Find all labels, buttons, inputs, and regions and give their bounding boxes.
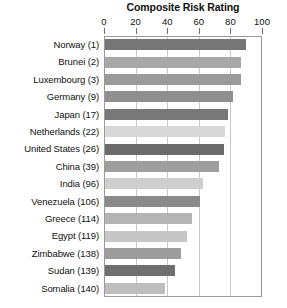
chart-row: India (96): [0, 175, 287, 192]
chart-row: United States (26): [0, 140, 287, 157]
row-label-13: Zimbabwe (138): [0, 245, 99, 262]
row-label-5: Japan (17): [0, 106, 99, 123]
row-label-14: Sudan (139): [0, 262, 99, 279]
row-label-15: Somalia (140): [0, 280, 99, 297]
bar-2: [105, 57, 241, 68]
row-label-8: China (39): [0, 158, 99, 175]
chart-rows: Norway (1)Brunei (2)Luxembourg (3)German…: [0, 36, 287, 297]
chart-title: Composite Risk Rating: [104, 1, 262, 13]
row-label-1: Norway (1): [0, 36, 99, 53]
chart-row: Greece (114): [0, 210, 287, 227]
x-axis-tick-labels: 020406080100: [0, 16, 287, 28]
x-tick-mark-60: [199, 28, 200, 34]
bar-11: [105, 213, 192, 224]
chart-row: Japan (17): [0, 106, 287, 123]
chart-row: Sudan (139): [0, 262, 287, 279]
chart-row: China (39): [0, 158, 287, 175]
x-tick-mark-40: [167, 28, 168, 34]
chart-row: Brunei (2): [0, 53, 287, 70]
row-label-11: Greece (114): [0, 210, 99, 227]
x-tick-mark-100: [262, 28, 263, 34]
bar-6: [105, 126, 225, 137]
x-tick-mark-80: [230, 28, 231, 34]
x-tick-label-20: 20: [130, 16, 141, 27]
row-label-12: Egypt (119): [0, 227, 99, 244]
bar-3: [105, 74, 241, 85]
chart-row: Egypt (119): [0, 227, 287, 244]
bar-13: [105, 248, 181, 259]
chart-row: Germany (9): [0, 88, 287, 105]
chart-row: Netherlands (22): [0, 123, 287, 140]
row-label-4: Germany (9): [0, 88, 99, 105]
bar-15: [105, 283, 165, 294]
row-label-9: India (96): [0, 175, 99, 192]
row-label-3: Luxembourg (3): [0, 71, 99, 88]
bar-1: [105, 39, 246, 50]
composite-risk-rating-chart: Composite Risk Rating 020406080100 Norwa…: [0, 0, 287, 308]
x-tick-label-40: 40: [162, 16, 173, 27]
chart-row: Luxembourg (3): [0, 71, 287, 88]
x-tick-label-80: 80: [225, 16, 236, 27]
x-tick-mark-0: [104, 28, 105, 34]
chart-row: Norway (1): [0, 36, 287, 53]
chart-row: Venezuela (106): [0, 193, 287, 210]
bar-10: [105, 196, 200, 207]
chart-row: Somalia (140): [0, 280, 287, 297]
row-label-10: Venezuela (106): [0, 193, 99, 210]
bar-5: [105, 109, 228, 120]
row-label-6: Netherlands (22): [0, 123, 99, 140]
row-label-2: Brunei (2): [0, 53, 99, 70]
bar-7: [105, 144, 224, 155]
x-tick-label-100: 100: [254, 16, 270, 27]
bar-4: [105, 91, 233, 102]
row-label-7: United States (26): [0, 140, 99, 157]
bar-14: [105, 265, 175, 276]
bar-12: [105, 231, 187, 242]
bar-9: [105, 178, 203, 189]
chart-row: Zimbabwe (138): [0, 245, 287, 262]
x-tick-label-0: 0: [101, 16, 106, 27]
bar-8: [105, 161, 219, 172]
x-tick-mark-20: [136, 28, 137, 34]
x-tick-label-60: 60: [194, 16, 205, 27]
